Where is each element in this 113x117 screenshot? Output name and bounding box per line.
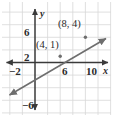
x-axis-label: x <box>103 66 108 76</box>
y-tick-label-minus-6: −6 <box>22 100 34 111</box>
x-tick-label-6: 6 <box>62 66 68 77</box>
coordinate-plane-figure: 6 2 −6 −2 6 10 y x (4, 1) (8, 4) <box>0 0 113 117</box>
graph-canvas <box>0 0 113 117</box>
data-point-4-1 <box>59 55 62 58</box>
y-tick-label-2: 2 <box>24 52 30 63</box>
data-point-8-4 <box>84 36 87 39</box>
point-label-8-4: (8, 4) <box>58 19 81 30</box>
x-tick-label-10: 10 <box>86 66 97 77</box>
gridlines <box>2 2 111 115</box>
point-label-4-1: (4, 1) <box>36 40 59 51</box>
y-axis-label: y <box>40 9 44 19</box>
y-tick-label-6: 6 <box>24 27 30 38</box>
x-tick-label-minus-2: −2 <box>9 66 21 77</box>
